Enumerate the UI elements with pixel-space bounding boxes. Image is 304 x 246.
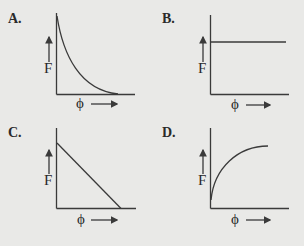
graph-a-y-label: F: [44, 60, 52, 77]
graphs-canvas: [0, 0, 304, 246]
graph-b-y-label: F: [198, 60, 206, 77]
graph-a-curve: [57, 16, 118, 94]
graph-d: [203, 128, 289, 220]
graph-a-label: A.: [8, 11, 22, 27]
graph-d-x-label: ϕ: [231, 211, 239, 228]
graph-d-y-label: F: [198, 172, 206, 189]
graph-c: [49, 128, 136, 220]
graph-c-x-label: ϕ: [77, 211, 85, 228]
graph-d-label: D.: [162, 125, 176, 141]
graph-b-label: B.: [162, 11, 175, 27]
graph-d-curve: [211, 146, 268, 200]
graph-a: [49, 13, 135, 104]
graph-b-x-label: ϕ: [231, 96, 239, 113]
graph-b: [203, 15, 289, 105]
graph-c-curve: [57, 143, 121, 209]
graph-c-y-label: F: [44, 172, 52, 189]
graph-c-label: C.: [8, 125, 22, 141]
graph-a-x-label: ϕ: [76, 95, 84, 112]
